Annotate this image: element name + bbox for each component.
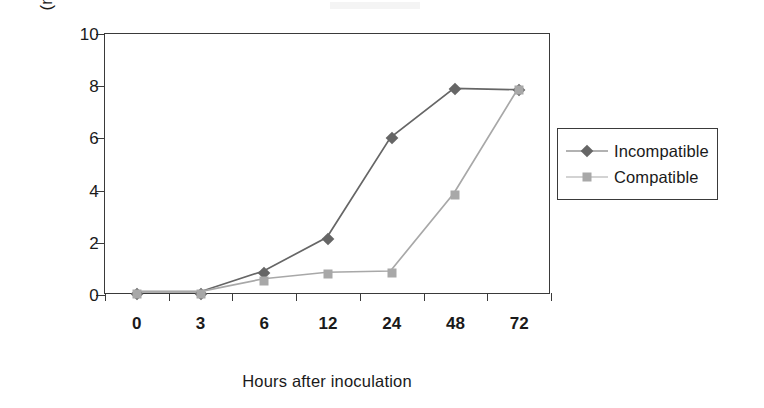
x-axis-tick-label: 24 (382, 315, 401, 332)
data-point-compatible-24h (387, 268, 396, 277)
scan-artifact (330, 2, 420, 9)
legend-item-compatible[interactable]: Compatible (566, 164, 707, 190)
x-axis-tick (232, 293, 233, 301)
series-line-compatible (137, 90, 518, 292)
x-axis-tick-label: 3 (196, 315, 205, 332)
y-axis-tick-label: 10 (80, 26, 99, 43)
x-axis-tick (169, 293, 170, 301)
y-axis-tick-label: 0 (89, 287, 99, 304)
x-axis-tick (424, 293, 425, 301)
chart-legend: Incompatible Compatible (557, 128, 718, 200)
plot-area: 0246810 03612244872 (104, 33, 550, 294)
x-axis-tick (487, 293, 488, 301)
series-line-incompatible (137, 88, 518, 291)
legend-key-incompatible (566, 145, 608, 157)
x-axis-tick-label: 6 (260, 315, 269, 332)
square-marker-icon (583, 173, 592, 182)
x-axis-tick-label: 12 (319, 315, 338, 332)
legend-item-incompatible[interactable]: Incompatible (566, 138, 707, 164)
x-axis-tick (360, 293, 361, 301)
data-point-compatible-48h (451, 190, 460, 199)
y-axis-title-line-1: LOX activity (16, 0, 36, 11)
legend-label-incompatible: Incompatible (614, 143, 709, 160)
x-axis-tick (551, 293, 552, 301)
y-axis-title: LOX activity (nkat mg/protein) (14, 0, 58, 77)
x-axis-tick (296, 293, 297, 301)
data-point-compatible-3h (196, 289, 205, 298)
y-axis-tick-label: 2 (89, 234, 99, 251)
x-axis-title: Hours after inoculation (104, 372, 550, 391)
data-point-compatible-6h (260, 276, 269, 285)
data-point-compatible-72h (515, 86, 524, 95)
lox-activity-line-chart: LOX activity (nkat mg/protein) 0246810 0… (0, 0, 764, 408)
y-axis-tick-label: 6 (89, 130, 99, 147)
x-axis-tick-label: 48 (446, 315, 465, 332)
x-axis-tick-label: 72 (510, 315, 529, 332)
diamond-marker-icon (581, 145, 594, 158)
legend-key-compatible (566, 171, 608, 183)
series-layer (105, 34, 549, 293)
data-point-compatible-12h (324, 270, 333, 279)
y-axis-tick-label: 4 (89, 182, 99, 199)
y-axis-title-line-2: (nkat mg/protein) (36, 0, 56, 11)
x-axis-tick (105, 293, 106, 301)
x-axis-tick-label: 0 (132, 315, 141, 332)
y-axis-tick-label: 8 (89, 78, 99, 95)
data-point-compatible-0h (132, 289, 141, 298)
legend-label-compatible: Compatible (614, 169, 698, 186)
